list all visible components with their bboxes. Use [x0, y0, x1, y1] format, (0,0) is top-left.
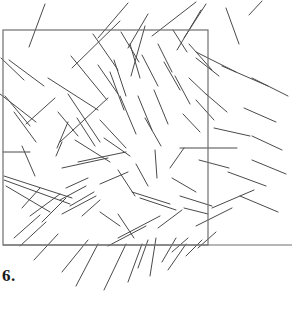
- line-segment: [121, 32, 139, 62]
- line-segment: [196, 100, 214, 120]
- line-segment: [154, 90, 168, 124]
- line-segment: [42, 198, 66, 222]
- line-segment: [175, 76, 190, 104]
- line-segment: [9, 60, 44, 86]
- line-segment: [48, 78, 98, 110]
- line-segment: [72, 21, 120, 68]
- line-segment: [252, 160, 286, 174]
- line-segment: [6, 186, 50, 212]
- line-segment: [214, 128, 250, 136]
- line-segment: [108, 226, 146, 246]
- line-segment: [93, 34, 118, 70]
- line-segment: [228, 172, 266, 186]
- figure-caption: 6.: [2, 266, 16, 286]
- line-segment: [155, 150, 157, 178]
- line-segment: [199, 160, 229, 168]
- line-segment: [71, 56, 107, 100]
- line-segment: [22, 146, 35, 176]
- line-segment: [180, 196, 212, 206]
- line-segment: [100, 212, 120, 226]
- line-segment: [138, 96, 152, 130]
- figure-container: 6.: [0, 0, 292, 309]
- line-segment: [164, 62, 180, 90]
- line-segment: [249, 1, 262, 15]
- line-segment: [98, 3, 128, 38]
- line-segment: [150, 238, 156, 276]
- line-segment: [183, 114, 200, 132]
- line-segment: [186, 240, 202, 256]
- line-segment: [206, 94, 227, 112]
- line-segment: [244, 108, 276, 122]
- line-segment: [60, 186, 86, 200]
- line-texture-canvas: [0, 0, 292, 309]
- line-segment: [172, 178, 196, 192]
- line-segment: [30, 194, 60, 216]
- line-segment: [173, 30, 187, 52]
- line-segment: [226, 8, 239, 44]
- line-segment: [26, 98, 55, 124]
- line-segment: [158, 44, 172, 72]
- line-segment: [110, 72, 124, 110]
- line-segment: [145, 118, 161, 146]
- line-segment: [104, 138, 130, 156]
- line-segment: [158, 210, 182, 228]
- line-segment: [60, 98, 108, 142]
- line-segment: [4, 176, 72, 198]
- line-segment: [14, 215, 40, 238]
- line-segment: [34, 234, 58, 260]
- line-segment: [198, 232, 216, 248]
- line-segment: [58, 112, 78, 136]
- line-segment: [252, 78, 288, 96]
- line-segment: [20, 222, 46, 246]
- line-segment: [77, 118, 95, 146]
- line-segment: [131, 26, 145, 76]
- line-segment: [29, 4, 45, 47]
- region-outline-group: [3, 30, 292, 245]
- line-segment: [78, 152, 126, 162]
- line-segment: [138, 240, 148, 268]
- line-segment: [142, 55, 158, 86]
- line-segment: [62, 158, 108, 168]
- line-segment: [120, 96, 136, 134]
- line-segment: [252, 136, 282, 150]
- line-segment: [170, 148, 184, 168]
- line-segment: [136, 164, 148, 186]
- line-segment: [62, 196, 96, 214]
- line-segment: [240, 196, 278, 212]
- line-segment: [118, 216, 160, 238]
- line-segment: [128, 14, 148, 48]
- line-segment: [14, 112, 36, 142]
- line-segment: [57, 122, 68, 148]
- line-segment: [189, 78, 208, 96]
- line-segment: [184, 208, 208, 214]
- line-segment: [132, 192, 170, 204]
- line-segment: [5, 96, 30, 126]
- line-segment: [98, 65, 118, 94]
- line-segment: [196, 208, 232, 226]
- line-segment: [104, 244, 126, 290]
- random-line-segments: [0, 1, 288, 290]
